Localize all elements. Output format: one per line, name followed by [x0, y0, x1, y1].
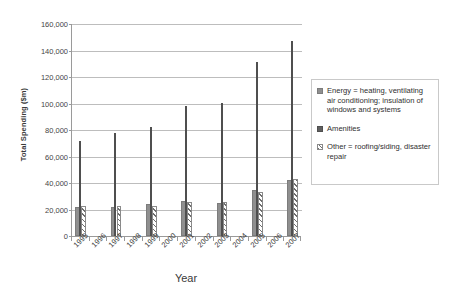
legend-item-energy: Energy = heating, ventilating air condit…	[317, 86, 433, 115]
x-axis-label-2003: 2003	[213, 241, 231, 275]
x-axis-label-2005: 2005	[248, 241, 266, 275]
bar-group	[125, 24, 143, 236]
bar-group	[72, 24, 90, 236]
plot-area: 160,000140,000120,000100,00080,00060,000…	[71, 24, 301, 237]
bar-group	[196, 24, 214, 236]
bar-group	[107, 24, 125, 236]
x-axis-label-2007: 2007	[283, 241, 301, 275]
x-axis-label-2000: 2000	[159, 241, 177, 275]
x-axis-label-1996: 1996	[89, 241, 107, 275]
bar-group	[178, 24, 196, 236]
bar-group	[284, 24, 302, 236]
x-axis-label-1997: 1997	[106, 241, 124, 275]
bar-group	[90, 24, 108, 236]
y-axis-tick-label: 60,000	[45, 152, 68, 161]
bar-group	[214, 24, 232, 236]
y-axis-tick-label: 0	[64, 232, 68, 241]
bar-group	[267, 24, 285, 236]
x-axis-label-2001: 2001	[177, 241, 195, 275]
y-axis-tick-label: 120,000	[41, 73, 68, 82]
bar-groups	[72, 24, 302, 236]
bar-other-2007	[293, 179, 298, 236]
bar-group	[249, 24, 267, 236]
y-axis-title: Total Spending ($m)	[19, 55, 28, 195]
y-axis-tick-label: 160,000	[41, 20, 68, 29]
y-axis-tick-label: 100,000	[41, 99, 68, 108]
x-axis-label-2004: 2004	[230, 241, 248, 275]
bar-other-2005	[258, 192, 263, 236]
x-axis-label-1995: 1995	[71, 241, 89, 275]
x-axis-labels: 1995199619971998199920002001200220032004…	[71, 241, 301, 275]
legend-label-amenities: Amenities	[327, 124, 360, 134]
legend-swatch-amenities-icon	[317, 126, 323, 132]
x-axis-label-1999: 1999	[142, 241, 160, 275]
legend-item-amenities: Amenities	[317, 124, 433, 134]
x-axis-label-2002: 2002	[195, 241, 213, 275]
x-axis-label-1998: 1998	[124, 241, 142, 275]
legend: Energy = heating, ventilating air condit…	[311, 79, 439, 185]
y-axis-tick-label: 80,000	[45, 126, 68, 135]
y-axis-tick-label: 40,000	[45, 179, 68, 188]
y-axis-tick-label: 20,000	[45, 205, 68, 214]
y-axis-tick-label: 140,000	[41, 46, 68, 55]
bar-group	[231, 24, 249, 236]
legend-label-energy: Energy = heating, ventilating air condit…	[327, 86, 433, 115]
legend-swatch-energy-icon	[317, 88, 323, 94]
x-axis-title: Year	[71, 272, 301, 284]
bar-group	[143, 24, 161, 236]
x-axis-label-2006: 2006	[266, 241, 284, 275]
bar-chart: Total Spending ($m) 160,000140,000120,00…	[0, 0, 449, 294]
bar-group	[160, 24, 178, 236]
legend-swatch-other-icon	[317, 144, 323, 150]
legend-item-other: Other = roofing/siding, disaster repair	[317, 142, 433, 161]
legend-label-other: Other = roofing/siding, disaster repair	[327, 142, 433, 161]
